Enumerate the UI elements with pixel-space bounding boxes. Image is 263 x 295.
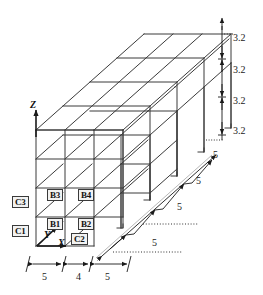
- building-frame-geometry: [36, 34, 231, 246]
- x-bay-dimension-line: [26, 256, 131, 272]
- figure-canvas: B3 B4 B1 B2 C3 C1 C2 Z X Y 3.2 3.2 3.2 3…: [0, 0, 263, 295]
- long-receding-edges: [148, 39, 231, 176]
- rear-frames: [63, 111, 177, 228]
- x-bay-span-1: 5: [42, 272, 47, 282]
- frame-drawing: [0, 0, 263, 295]
- beam-label-b3: B3: [47, 189, 63, 201]
- axis-label-x: X: [58, 238, 65, 248]
- axis-label-z: Z: [30, 100, 36, 110]
- y-bay-span-3: 5: [177, 202, 182, 212]
- column-label-c2: C2: [71, 233, 88, 245]
- y-bay-span-4: 5: [152, 238, 157, 248]
- column-label-c1: C1: [12, 225, 29, 237]
- storey-height-3: 3.2: [233, 96, 246, 106]
- beam-label-b4: B4: [78, 189, 94, 201]
- column-label-c3: C3: [12, 196, 29, 208]
- rear-side-beams: [121, 111, 177, 193]
- y-bay-span-2: 5: [196, 176, 201, 186]
- y-bay-span-1: 5: [213, 150, 218, 160]
- axis-label-y: Y: [44, 230, 50, 240]
- roof-plane: [36, 34, 231, 130]
- storey-height-1: 3.2: [233, 33, 246, 43]
- x-bay-span-2: 4: [76, 272, 81, 282]
- beam-label-b2: B2: [78, 218, 94, 230]
- storey-height-2: 3.2: [233, 65, 246, 75]
- x-bay-span-3: 5: [105, 272, 110, 282]
- outer-envelope: [123, 34, 231, 228]
- storey-height-4: 3.2: [233, 126, 246, 136]
